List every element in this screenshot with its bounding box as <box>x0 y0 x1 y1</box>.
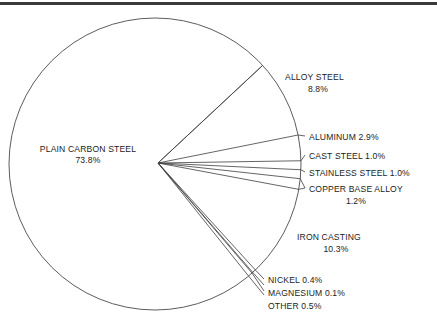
slice-label-cast-steel: CAST STEEL 1.0% <box>309 151 385 161</box>
slice-label-stainless-steel: STAINLESS STEEL 1.0% <box>309 168 410 178</box>
slice-label-alloy-steel-value: 8.8% <box>308 84 328 94</box>
pie-chart-figure: PLAIN CARBON STEEL 73.8% ALLOY STEEL 8.8… <box>0 0 437 331</box>
pie-outline-circle <box>9 18 301 310</box>
slice-label-copper-base-alloy-value: 1.2% <box>346 196 366 206</box>
slice-label-alloy-steel-name: ALLOY STEEL <box>285 72 344 82</box>
leader-line-copper-base-alloy-lower <box>299 188 305 189</box>
slice-label-copper-base-alloy-name: COPPER BASE ALLOY <box>309 184 403 194</box>
slice-label-iron-casting-name: IRON CASTING <box>297 232 361 242</box>
slice-label-iron-casting-value: 10.3% <box>323 244 348 254</box>
slice-label-plain-carbon-steel-value: 73.8% <box>75 155 100 165</box>
leader-line-nickel <box>255 270 264 279</box>
leader-line-aluminum <box>298 135 305 136</box>
pie-chart-svg: PLAIN CARBON STEEL 73.8% ALLOY STEEL 8.8… <box>0 0 437 331</box>
leader-line-stainless-steel <box>301 170 305 172</box>
slice-label-plain-carbon-steel-name: PLAIN CARBON STEEL <box>40 144 136 154</box>
slice-label-nickel: NICKEL 0.4% <box>268 275 323 285</box>
leader-line-copper-base-alloy <box>300 179 305 188</box>
top-divider-rule <box>0 2 437 5</box>
slice-label-aluminum: ALUMINUM 2.9% <box>309 132 379 142</box>
leader-line-cast-steel <box>301 155 305 161</box>
slice-label-magnesium: MAGNESIUM 0.1% <box>268 288 345 298</box>
slice-label-other: OTHER 0.5% <box>268 301 322 311</box>
